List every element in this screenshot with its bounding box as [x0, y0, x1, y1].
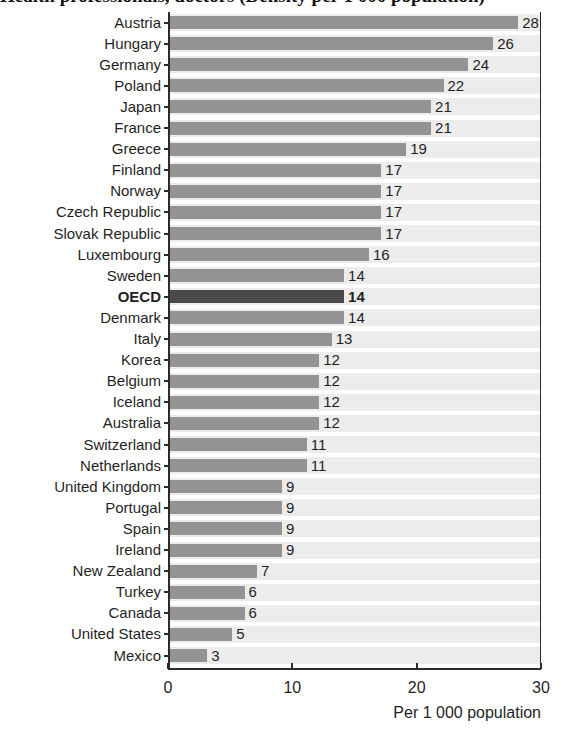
value-label-luxembourg: 16	[373, 247, 390, 262]
category-label-norway: Norway	[0, 183, 161, 198]
bar-new-zealand[interactable]	[170, 565, 257, 578]
category-tick	[164, 169, 169, 171]
bar-ireland[interactable]	[170, 544, 282, 557]
value-label-austria: 28	[522, 15, 539, 30]
bar-poland[interactable]	[170, 79, 444, 92]
bar-hungary[interactable]	[170, 37, 493, 50]
bar-spain[interactable]	[170, 522, 282, 535]
category-label-oecd: OECD	[0, 289, 161, 304]
category-label-austria: Austria	[0, 15, 161, 30]
category-label-poland: Poland	[0, 78, 161, 93]
bar-slovak-republic[interactable]	[170, 227, 381, 240]
bar-czech-republic[interactable]	[170, 206, 381, 219]
bar-chart: Health professionals, doctors (Density p…	[0, 0, 569, 742]
category-tick	[164, 444, 169, 446]
category-label-japan: Japan	[0, 99, 161, 114]
value-label-czech-republic: 17	[385, 204, 402, 219]
category-tick	[164, 401, 169, 403]
category-label-spain: Spain	[0, 521, 161, 536]
bar-netherlands[interactable]	[170, 459, 307, 472]
category-tick	[164, 633, 169, 635]
plot-area	[168, 12, 541, 670]
category-label-australia: Australia	[0, 415, 161, 430]
value-label-turkey: 6	[249, 584, 257, 599]
category-tick	[164, 380, 169, 382]
bar-canada[interactable]	[170, 607, 245, 620]
value-label-switzerland: 11	[311, 437, 327, 452]
category-label-mexico: Mexico	[0, 648, 161, 663]
category-tick	[164, 507, 169, 509]
category-label-portugal: Portugal	[0, 500, 161, 515]
value-label-ireland: 9	[286, 542, 294, 557]
value-label-belgium: 12	[323, 373, 340, 388]
bar-united-kingdom[interactable]	[170, 480, 282, 493]
category-label-canada: Canada	[0, 605, 161, 620]
category-label-italy: Italy	[0, 331, 161, 346]
category-label-iceland: Iceland	[0, 394, 161, 409]
value-label-norway: 17	[385, 183, 402, 198]
category-label-belgium: Belgium	[0, 373, 161, 388]
bar-finland[interactable]	[170, 164, 381, 177]
bar-belgium[interactable]	[170, 375, 319, 388]
bar-mexico[interactable]	[170, 649, 207, 662]
category-tick	[164, 338, 169, 340]
category-tick	[164, 296, 169, 298]
category-tick	[164, 64, 169, 66]
category-tick	[164, 549, 169, 551]
category-label-sweden: Sweden	[0, 268, 161, 283]
bar-united-states[interactable]	[170, 628, 232, 641]
x-axis-caption: Per 1 000 population	[0, 704, 541, 722]
category-label-france: France	[0, 120, 161, 135]
bar-sweden[interactable]	[170, 269, 344, 282]
category-label-netherlands: Netherlands	[0, 458, 161, 473]
value-label-italy: 13	[336, 331, 353, 346]
bar-australia[interactable]	[170, 417, 319, 430]
x-tick-mark	[291, 663, 293, 669]
category-tick	[164, 254, 169, 256]
x-tick-label-20: 20	[387, 680, 447, 696]
bar-iceland[interactable]	[170, 396, 319, 409]
bar-austria[interactable]	[170, 16, 518, 29]
x-tick-label-30: 30	[511, 680, 569, 696]
bar-italy[interactable]	[170, 333, 332, 346]
bar-norway[interactable]	[170, 185, 381, 198]
value-label-slovak-republic: 17	[385, 226, 402, 241]
category-label-united-kingdom: United Kingdom	[0, 479, 161, 494]
value-label-united-kingdom: 9	[286, 479, 294, 494]
category-label-united-states: United States	[0, 626, 161, 641]
category-label-korea: Korea	[0, 352, 161, 367]
category-label-slovak-republic: Slovak Republic	[0, 226, 161, 241]
category-tick	[164, 233, 169, 235]
category-label-denmark: Denmark	[0, 310, 161, 325]
value-label-poland: 22	[448, 78, 465, 93]
category-label-turkey: Turkey	[0, 584, 161, 599]
category-tick	[164, 612, 169, 614]
category-tick	[164, 465, 169, 467]
category-tick	[164, 422, 169, 424]
bar-portugal[interactable]	[170, 501, 282, 514]
bar-turkey[interactable]	[170, 586, 245, 599]
bar-korea[interactable]	[170, 354, 319, 367]
category-label-germany: Germany	[0, 57, 161, 72]
bar-switzerland[interactable]	[170, 438, 307, 451]
bar-luxembourg[interactable]	[170, 248, 369, 261]
value-label-australia: 12	[323, 415, 340, 430]
chart-title: Health professionals, doctors (Density p…	[0, 0, 569, 6]
category-tick	[164, 43, 169, 45]
value-label-hungary: 26	[497, 36, 514, 51]
bar-greece[interactable]	[170, 143, 406, 156]
value-label-spain: 9	[286, 521, 294, 536]
value-label-denmark: 14	[348, 310, 365, 325]
category-tick	[164, 106, 169, 108]
bar-denmark[interactable]	[170, 311, 344, 324]
category-tick	[164, 570, 169, 572]
bar-germany[interactable]	[170, 58, 468, 71]
category-tick	[164, 148, 169, 150]
bar-japan[interactable]	[170, 100, 431, 113]
value-label-greece: 19	[410, 141, 427, 156]
x-tick-mark	[540, 663, 542, 669]
bar-france[interactable]	[170, 122, 431, 135]
bar-oecd[interactable]	[170, 290, 344, 303]
category-label-hungary: Hungary	[0, 36, 161, 51]
value-label-mexico: 3	[211, 648, 219, 663]
